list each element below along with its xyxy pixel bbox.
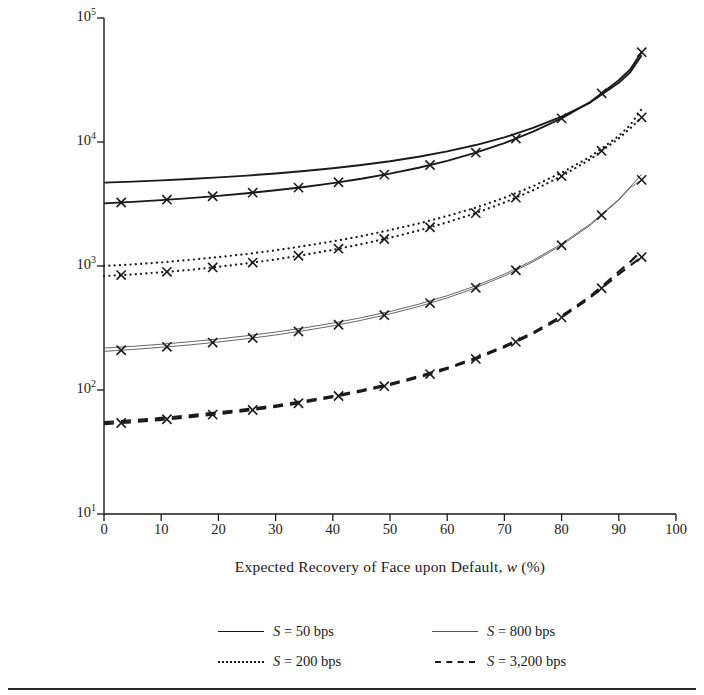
data-marker-x [557,172,566,181]
x-tick-label: 20 [196,521,240,538]
legend-item-1: S = 50 bps [218,620,334,642]
legend-label: S = 200 bps [273,653,341,670]
data-marker-x [471,283,480,292]
legend-item-3: S = 200 bps [218,650,341,672]
data-marker-x [334,320,343,329]
series-line-2-upper [104,109,642,266]
data-marker-x [597,211,606,220]
y-tick-label: 105 [50,9,96,24]
series-line-3-upper [104,174,642,348]
data-marker-x [471,209,480,218]
legend-line-sample [432,625,478,637]
series-line-4-upper [104,251,642,423]
y-tick-label: 104 [50,133,96,148]
x-tick-label: 100 [654,521,698,538]
chart-legend: S = 50 bpsS = 800 bpsS = 200 bpsS = 3,20… [0,620,704,680]
data-marker-x [511,134,520,143]
data-marker-x [597,284,606,293]
x-tick-label: 40 [311,521,355,538]
figure-container: 101102103104105 0102030405060708090100 M… [0,0,704,695]
data-marker-x [248,258,257,267]
legend-line-sample [432,655,478,667]
data-marker-x [637,175,646,184]
data-marker-x [511,193,520,202]
legend-item-4: S = 3,200 bps [432,650,566,672]
legend-item-2: S = 800 bps [432,620,555,642]
legend-line-sample [218,655,264,667]
data-marker-x [380,311,389,320]
y-tick-label: 102 [50,381,96,396]
data-marker-x [162,267,171,276]
series-line-4-lower [104,257,642,424]
bottom-divider-rule [8,688,696,690]
data-marker-x [637,113,646,122]
legend-label: S = 3,200 bps [487,653,566,670]
chart-plot [0,0,704,695]
data-marker-x [294,251,303,260]
data-series-group [104,52,642,424]
y-tick-label: 101 [50,505,96,520]
data-marker-x [557,313,566,322]
x-tick-label: 10 [139,521,183,538]
data-marker-x [637,252,646,261]
x-axis-title: Expected Recovery of Face upon Default, … [104,558,676,576]
data-marker-x [511,337,520,346]
data-marker-x [248,405,257,414]
x-tick-label: 80 [540,521,584,538]
data-marker-x [597,146,606,155]
series-line-1-lower [104,52,642,203]
data-markers-group [117,48,647,428]
x-tick-label: 60 [425,521,469,538]
x-tick-label: 50 [368,521,412,538]
legend-line-sample [218,625,264,637]
x-tick-label: 70 [482,521,526,538]
legend-label: S = 50 bps [273,623,334,640]
data-marker-x [425,298,434,307]
x-tick-label: 0 [82,521,126,538]
series-line-2-lower [104,117,642,276]
series-line-3-lower [104,180,642,351]
axes-group [104,18,676,514]
legend-label: S = 800 bps [487,623,555,640]
axis-spines [104,18,676,514]
x-tick-label: 90 [597,521,641,538]
x-tick-label: 30 [254,521,298,538]
y-tick-label: 103 [50,257,96,272]
